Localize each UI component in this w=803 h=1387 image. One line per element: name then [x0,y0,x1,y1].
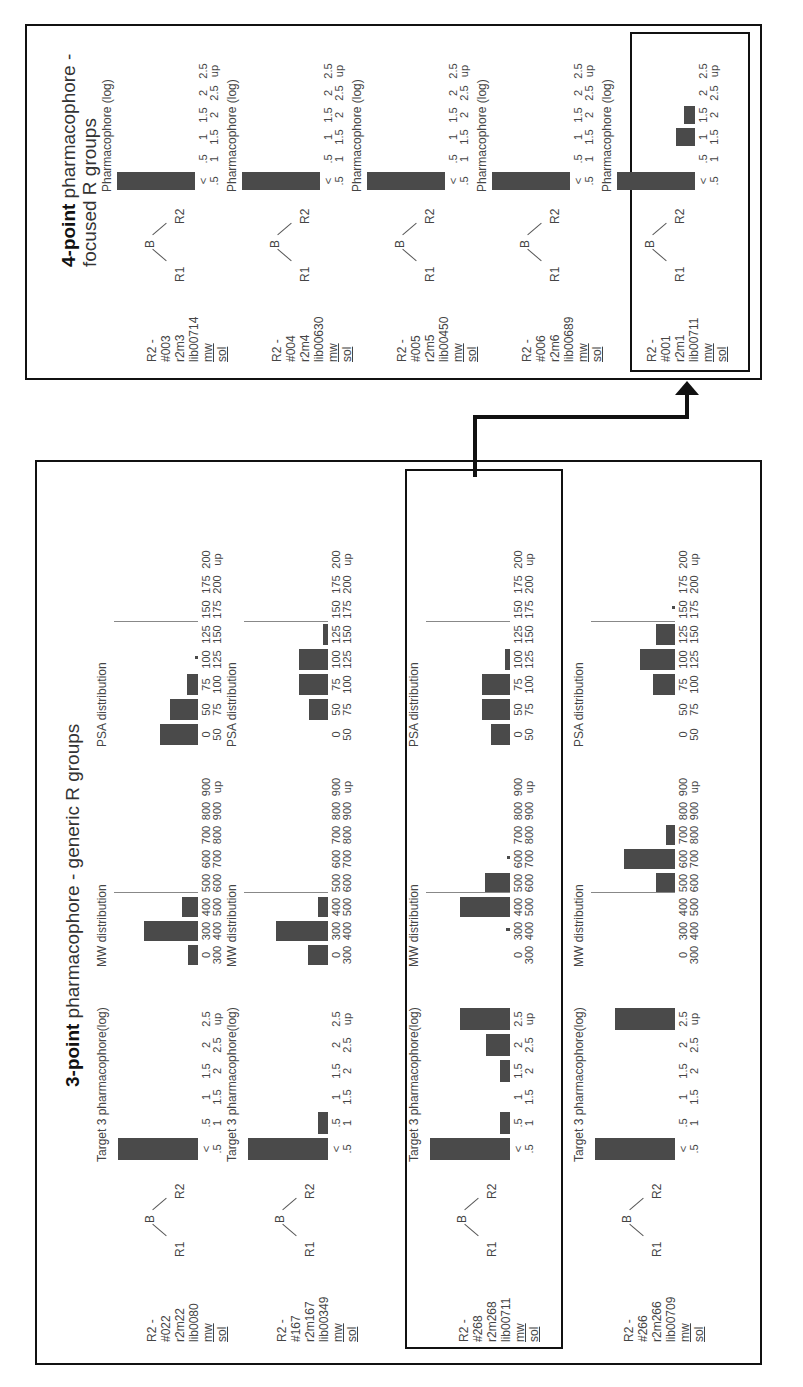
pharm4-chart-tick-bottom: up [209,60,220,82]
psa-chart-tick-bottom: 75 [342,697,353,722]
r2-label: R2 [548,209,562,224]
pharm4-chart: Pharmacophore (log)<.5.5111.51.5222.52.5… [100,50,225,192]
compound-sol[interactable]: sol [590,317,604,362]
pharm4-chart-tick-bottom: .5 [334,170,345,192]
r1-label: R1 [173,1242,187,1257]
psa-chart-tick-bottom: 50 [689,722,700,747]
pharm4-chart-tick-label: 11.5 [698,126,720,148]
compound-id: R2 - #266 [622,1297,650,1342]
target3-chart-bar [460,1008,510,1030]
target3-chart-tick-bottom: 1.5 [212,1084,223,1110]
psa-chart-tick-bottom: 75 [689,697,700,722]
mw-chart-tick-bottom: 400 [524,919,535,943]
psa-chart-bar [653,674,675,695]
target3-chart-tick-bottom: up [212,1006,223,1032]
target3-chart-tick-label: .51 [201,1110,223,1136]
compound-sol[interactable]: sol [692,1297,706,1342]
psa-chart-tick-label: 175200 [513,572,535,597]
target3-chart: Target 3 pharmacophore(log)<.5.5111.51.5… [225,996,358,1162]
compound-mw[interactable]: mw [701,318,715,362]
compound-sol[interactable]: sol [345,1297,359,1342]
pharm4-chart-tick-label: 2.5up [448,60,470,82]
mw-chart-bar [308,945,328,965]
target3-chart: Target 3 pharmacophore(log)<.5.5111.51.5… [572,996,705,1162]
mw-chart-tick-label: 500600 [331,871,353,895]
psa-chart-tick-bottom: 100 [689,672,700,697]
compound-sol[interactable]: sol [527,1298,541,1342]
pharm4-chart-title: Pharmacophore (log) [475,79,489,192]
psa-chart-tick-bottom: 50 [524,722,535,747]
compound-mw[interactable]: mw [331,1297,345,1342]
pharm4-chart: Pharmacophore (log)<.5.5111.51.5222.52.5… [350,50,475,192]
bond-line [464,1198,478,1210]
target3-chart-tick-bottom: 1.5 [524,1084,535,1110]
psa-chart-tick-label: 200up [331,547,353,572]
mw-chart-tick-bottom: 700 [524,847,535,871]
molecule-diagram: R1BR2 [260,202,320,282]
target3-chart-tick-label: 1.52 [678,1058,700,1084]
target3-chart-tick-bottom: 2.5 [524,1032,535,1058]
bond-line [282,1198,296,1210]
target3-chart-tick-label: .51 [513,1110,535,1136]
pharm4-chart-tick-label: 1.52 [198,104,220,126]
pharm4-chart-tick-bottom: 2.5 [709,82,720,104]
molecule-diagram: R1BR2 [385,202,445,282]
bond-line [527,249,541,261]
b-label: B [643,240,657,248]
compound-mw[interactable]: mw [201,317,215,362]
psa-chart-tick-label: 75100 [678,672,700,697]
psa-chart-tick-bottom: 200 [212,572,223,597]
compound-mw[interactable]: mw [201,1303,215,1342]
target3-chart-tick-label: 22.5 [331,1032,353,1058]
mw-chart-tick-bottom: 800 [524,823,535,847]
pharm4-chart-tick-label: .51 [448,148,470,170]
compound-meta: R2 - #167r2m167lib00349mwsol [275,1297,359,1342]
pharm4-chart-tick-bottom: .5 [584,170,595,192]
mw-chart-tick-bottom: 500 [342,895,353,919]
compound-mw[interactable]: mw [513,1298,527,1342]
psa-chart-bar [309,699,328,720]
compound-sol[interactable]: sol [340,317,354,362]
b-label: B [455,1215,469,1223]
psa-chart-tick-label: 175200 [331,572,353,597]
psa-chart-tick-label: 100125 [201,647,223,672]
compound-mw[interactable]: mw [678,1297,692,1342]
target3-chart-tick-label: 2.5up [201,1006,223,1032]
compound-mw[interactable]: mw [451,317,465,362]
pharm4-chart-tick-bottom: .5 [459,170,470,192]
psa-chart-tick-label: 100125 [513,647,535,672]
target3-chart-tick-label: 22.5 [201,1032,223,1058]
mw-chart-tick-label: 0300 [331,943,353,967]
psa-chart-tick-label: 200up [513,547,535,572]
molecule-diagram: R1BR2 [135,202,195,282]
compound-sol[interactable]: sol [715,318,729,362]
compound-sol[interactable]: sol [215,317,229,362]
pharm4-chart-tick-label: .51 [573,148,595,170]
mw-chart-tick-label: 0300 [201,943,223,967]
psa-chart-tick-label: 125150 [331,622,353,647]
mw-chart-tick-label: 300400 [331,919,353,943]
target3-chart-tick-label: 11.5 [331,1084,353,1110]
psa-chart-tick-label: 5075 [331,697,353,722]
mw-chart-tick-bottom: 800 [689,823,700,847]
psa-chart-tick-label: 125150 [678,622,700,647]
compound-sol[interactable]: sol [215,1303,229,1342]
compound-mw[interactable]: mw [576,317,590,362]
pharm4-chart-tick-bottom: 2 [334,104,345,126]
mw-chart-tick-bottom: 600 [342,871,353,895]
psa-chart-bar [482,674,510,695]
pharm4-chart-tick-label: 1.52 [698,104,720,126]
r1-label: R1 [303,1242,317,1257]
psa-chart-tick-label: 75100 [513,672,535,697]
psa-chart-tick-bottom: 100 [524,672,535,697]
pharm4-chart-tick-bottom: up [584,60,595,82]
mw-chart-tick-label: 0300 [513,943,535,967]
mw-chart-tick-bottom: 900 [342,799,353,823]
compound-meta: R2 - #006r2m6lib00689mwsol [520,317,604,362]
mw-chart-tick-label: 400500 [513,895,535,919]
r2-label: R2 [173,209,187,224]
compound-mw[interactable]: mw [326,317,340,362]
r1-label: R1 [423,267,437,282]
compound-sol[interactable]: sol [465,317,479,362]
pharm4-chart-tick-bottom: 1 [459,148,470,170]
